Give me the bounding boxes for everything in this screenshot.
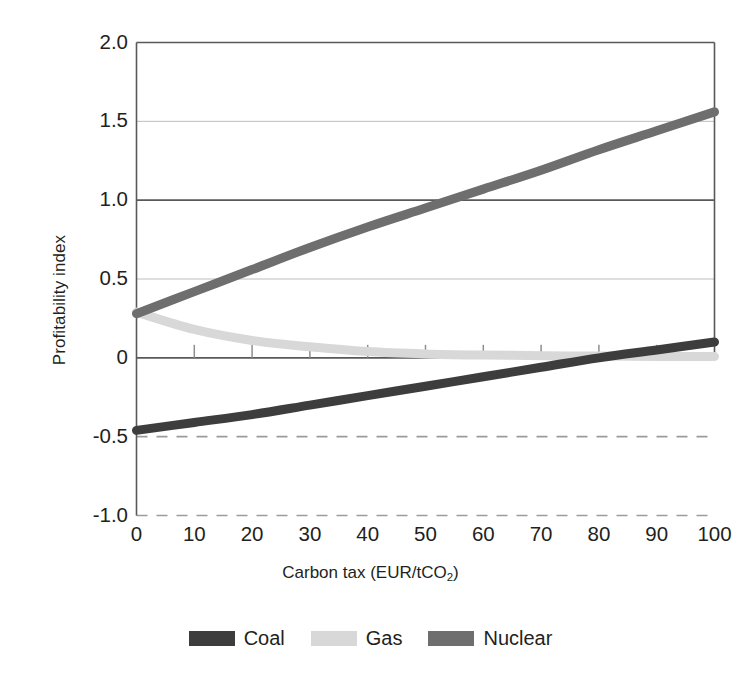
- chart-figure: Profitability index 2.01.51.00.50-0.5-1.…: [0, 0, 741, 673]
- legend-item-coal[interactable]: Coal: [189, 628, 285, 648]
- legend-swatch-icon: [428, 631, 474, 646]
- x-tick-label: 100: [680, 524, 741, 545]
- x-axis-title-main: Carbon tax (EUR/tCO: [282, 563, 446, 582]
- legend-item-gas[interactable]: Gas: [311, 628, 403, 648]
- legend-item-nuclear[interactable]: Nuclear: [428, 628, 552, 648]
- series-line-nuclear: [137, 112, 715, 314]
- chart-legend: CoalGasNuclear: [0, 628, 741, 648]
- legend-swatch-icon: [311, 631, 357, 646]
- x-axis-title-subscript: 2: [447, 571, 453, 583]
- legend-label: Gas: [366, 628, 403, 648]
- x-axis-title-tail: ): [453, 563, 459, 582]
- legend-label: Coal: [244, 628, 285, 648]
- x-axis-title: Carbon tax (EUR/tCO2): [0, 563, 741, 583]
- data-series-layer: [137, 112, 715, 430]
- x-axis-tick-labels: 0102030405060708090100: [0, 524, 741, 554]
- legend-label: Nuclear: [483, 628, 552, 648]
- legend-swatch-icon: [189, 631, 235, 646]
